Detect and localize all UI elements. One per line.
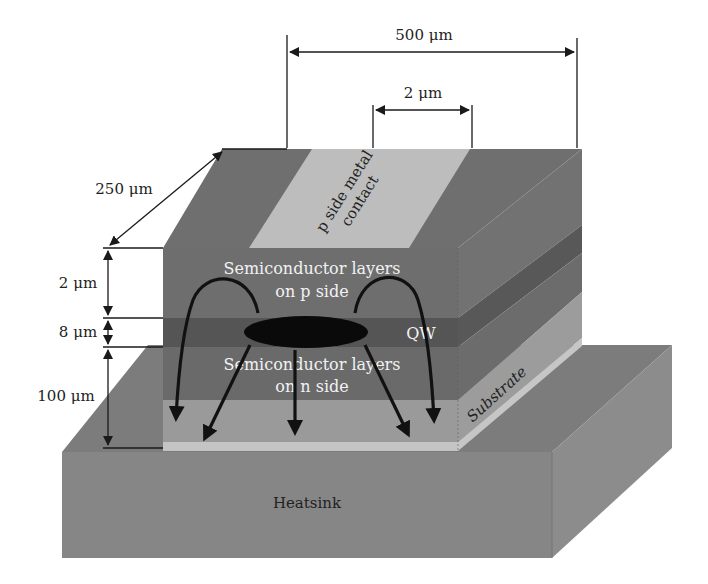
heatsink-label: Heatsink (273, 494, 342, 512)
dim-qw-thickness-label: 8 μm (59, 323, 97, 341)
dim-length-label: 500 μm (395, 26, 452, 44)
dim-stripe-width-label: 2 μm (404, 84, 442, 102)
n-side-label-line2: on n side (275, 377, 348, 396)
solder-strip (163, 442, 458, 451)
qw-label: QW (406, 324, 436, 343)
dim-n-thickness-label: 100 μm (37, 387, 94, 405)
dim-p-thickness-label: 2 μm (59, 274, 97, 292)
laser-heatsink-diagram: Heatsink p side metal contact Semiconduc… (0, 0, 708, 584)
active-region-ellipse (244, 316, 368, 348)
dim-width-label: 250 μm (95, 180, 152, 198)
p-side-label-line2: on p side (275, 282, 348, 301)
p-side-label-line1: Semiconductor layers (224, 259, 401, 278)
